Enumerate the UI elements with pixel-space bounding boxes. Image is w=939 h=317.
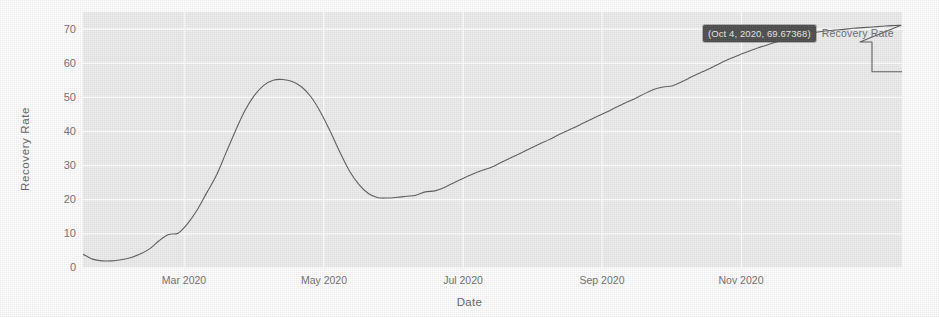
y-tick-30: 30 — [40, 159, 76, 171]
y-tick-10: 10 — [40, 227, 76, 239]
y-tick-40: 40 — [40, 125, 76, 137]
chart-screenshot: Recovery Rate 70 60 50 40 30 20 10 0 Mar… — [0, 0, 939, 317]
line-chart-svg — [83, 12, 902, 268]
x-tick-jul-2020: Jul 2020 — [443, 274, 483, 286]
plot-area — [83, 12, 902, 268]
x-tick-sep-2020: Sep 2020 — [580, 274, 625, 286]
legend-label-recovery-rate: Recovery Rate — [822, 27, 894, 39]
y-tick-20: 20 — [40, 193, 76, 205]
y-tick-50: 50 — [40, 91, 76, 103]
x-axis-title-text: Date — [457, 296, 483, 308]
x-tick-nov-2020: Nov 2020 — [719, 274, 764, 286]
y-tick-0: 0 — [40, 261, 76, 273]
y-axis-title: Recovery Rate — [14, 0, 36, 297]
tooltip-value-badge: (Oct 4, 2020, 69.67368) — [703, 25, 816, 42]
x-axis-title: Date — [0, 296, 939, 308]
x-tick-may-2020: May 2020 — [301, 274, 347, 286]
y-tick-70: 70 — [40, 23, 76, 35]
y-tick-60: 60 — [40, 57, 76, 69]
y-axis-title-text: Recovery Rate — [19, 107, 31, 191]
plot-background — [83, 12, 902, 268]
x-tick-mar-2020: Mar 2020 — [162, 274, 206, 286]
tooltip: (Oct 4, 2020, 69.67368) Recovery Rate — [703, 25, 894, 42]
